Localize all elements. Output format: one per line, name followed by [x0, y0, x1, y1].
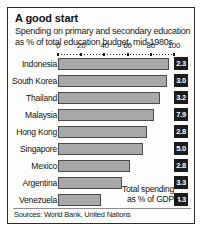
gdp-badge-thailand: 3.2 — [174, 91, 188, 104]
category-label-argentina: Argentina — [22, 178, 57, 188]
chart-card: A good start Spending on primary and sec… — [7, 7, 195, 224]
category-label-singapore: Singapore — [20, 144, 57, 154]
gdp-badge-argentina: 3.3 — [174, 176, 188, 189]
x-tick-label-40: 40 — [100, 41, 109, 50]
gdp-badge-malaysia: 7.9 — [174, 108, 188, 121]
x-tick-label-100: 100 — [168, 41, 181, 50]
gdp-badge-indonesia: 2.3 — [174, 57, 188, 70]
bar-row: Malaysia 7.9 — [8, 107, 195, 124]
category-label-malaysia: Malaysia — [25, 110, 57, 120]
bar-row: Hong Kong 2.8 — [8, 124, 195, 141]
gdp-badge-singapore: 5.0 — [174, 142, 188, 155]
bar-argentina — [58, 177, 122, 189]
bar-south-korea — [58, 75, 167, 87]
bar-hong-kong — [58, 126, 147, 138]
gdp-badge-south-korea: 3.0 — [174, 74, 188, 87]
category-label-south-korea: South Korea — [12, 76, 57, 86]
source-divider — [13, 208, 191, 209]
bar-chart-plot: 0 20 40 60 80 100 — [8, 8, 195, 224]
bar-row: South Korea 3.0 — [8, 73, 195, 90]
category-label-venezuela: Venezuela — [19, 195, 57, 205]
bar-indonesia — [58, 58, 169, 70]
category-label-indonesia: Indonesia — [22, 59, 57, 69]
gdp-badge-hong-kong: 2.8 — [174, 125, 188, 138]
category-label-hong-kong: Hong Kong — [16, 127, 57, 137]
gdp-annotation-line2: as % of GDP — [122, 195, 174, 205]
bar-row: Singapore 5.0 — [8, 141, 195, 158]
x-tick-label-0: 0 — [56, 41, 60, 50]
category-label-mexico: Mexico — [31, 161, 57, 171]
bar-thailand — [58, 92, 160, 104]
bar-venezuela — [58, 194, 101, 206]
gdp-annotation: Total spending as % of GDP — [122, 185, 174, 204]
annotation-arrow-icon — [175, 197, 179, 203]
x-tick-label-80: 80 — [147, 41, 156, 50]
bar-mexico — [58, 160, 130, 172]
bar-malaysia — [58, 109, 154, 121]
bar-row: Thailand 3.2 — [8, 90, 195, 107]
gdp-badge-mexico: 2.8 — [174, 159, 188, 172]
bar-singapore — [58, 143, 143, 155]
x-tick-label-60: 60 — [123, 41, 132, 50]
bar-row: Indonesia 2.3 — [8, 56, 195, 73]
source-note: Sources: World Bank, United Nations — [14, 210, 131, 219]
x-tick-label-20: 20 — [77, 41, 86, 50]
category-label-thailand: Thailand — [26, 93, 57, 103]
bar-row: Mexico 2.8 — [8, 158, 195, 175]
